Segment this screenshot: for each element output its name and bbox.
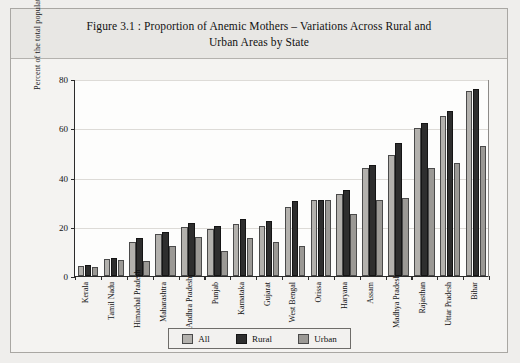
bar-urban[interactable] bbox=[247, 238, 253, 276]
bar-group bbox=[311, 80, 331, 276]
x-axis-label: Rajasthan bbox=[419, 282, 428, 314]
bar-all[interactable] bbox=[233, 224, 239, 276]
bar-urban[interactable] bbox=[454, 163, 460, 276]
bar-rural[interactable] bbox=[473, 89, 479, 276]
bar-group bbox=[181, 80, 201, 276]
bar-group bbox=[285, 80, 305, 276]
x-axis-label: Punjab bbox=[212, 282, 221, 304]
bar-rural[interactable] bbox=[111, 258, 117, 276]
bar-all[interactable] bbox=[259, 226, 265, 276]
bar-group bbox=[78, 80, 98, 276]
x-axis-label: Karnataka bbox=[238, 282, 247, 315]
x-axis-label: Tamil Nadu bbox=[108, 282, 117, 320]
bar-urban[interactable] bbox=[350, 214, 356, 276]
bar-urban[interactable] bbox=[169, 246, 175, 276]
x-tick-mark bbox=[179, 276, 180, 280]
x-tick-mark bbox=[489, 276, 490, 280]
x-axis-label: Bihar bbox=[471, 282, 480, 300]
bar-group bbox=[388, 80, 408, 276]
bar-rural[interactable] bbox=[421, 123, 427, 276]
bar-urban[interactable] bbox=[402, 198, 408, 276]
bar-urban[interactable] bbox=[143, 261, 149, 276]
legend-item-all: All bbox=[182, 334, 210, 344]
figure-container: Figure 3.1 : Proportion of Anemic Mother… bbox=[10, 8, 508, 353]
x-axis-label: Orissa bbox=[315, 282, 324, 302]
x-tick-mark bbox=[411, 276, 412, 280]
x-tick-mark bbox=[75, 276, 76, 280]
bar-all[interactable] bbox=[466, 91, 472, 276]
legend-label-all: All bbox=[198, 334, 210, 344]
x-axis-label: Andhra Pradesh bbox=[186, 282, 195, 328]
bar-group bbox=[129, 80, 149, 276]
bar-urban[interactable] bbox=[325, 200, 331, 276]
bar-rural[interactable] bbox=[395, 143, 401, 276]
bar-group bbox=[362, 80, 382, 276]
bar-group bbox=[259, 80, 279, 276]
bar-all[interactable] bbox=[311, 200, 317, 276]
x-axis-label: Assam bbox=[367, 282, 376, 304]
bar-rural[interactable] bbox=[162, 232, 168, 276]
bar-urban[interactable] bbox=[273, 242, 279, 276]
bar-all[interactable] bbox=[207, 229, 213, 276]
x-tick-mark bbox=[437, 276, 438, 280]
y-tick-label-0: 0 bbox=[32, 272, 75, 282]
bar-urban[interactable] bbox=[195, 237, 201, 276]
legend: All Rural Urban bbox=[168, 328, 351, 349]
y-tick-label-60: 60 bbox=[32, 124, 75, 134]
bar-urban[interactable] bbox=[480, 146, 486, 277]
bar-rural[interactable] bbox=[188, 223, 194, 276]
bar-all[interactable] bbox=[362, 168, 368, 276]
bar-rural[interactable] bbox=[85, 265, 91, 276]
bar-rural[interactable] bbox=[292, 201, 298, 276]
bar-rural[interactable] bbox=[369, 165, 375, 276]
bar-all[interactable] bbox=[388, 155, 394, 276]
bar-rural[interactable] bbox=[447, 111, 453, 276]
x-tick-mark bbox=[256, 276, 257, 280]
x-tick-mark bbox=[360, 276, 361, 280]
figure-title: Figure 3.1 : Proportion of Anemic Mother… bbox=[11, 9, 507, 59]
bar-urban[interactable] bbox=[118, 260, 124, 276]
bar-rural[interactable] bbox=[214, 226, 220, 276]
bar-all[interactable] bbox=[285, 207, 291, 276]
bar-all[interactable] bbox=[104, 259, 110, 276]
bar-rural[interactable] bbox=[318, 200, 324, 276]
x-tick-mark bbox=[386, 276, 387, 280]
x-axis-label: Gujarat bbox=[264, 282, 273, 306]
bar-all[interactable] bbox=[336, 194, 342, 276]
legend-label-rural: Rural bbox=[252, 334, 272, 344]
bar-urban[interactable] bbox=[221, 251, 227, 276]
bar-all[interactable] bbox=[440, 116, 446, 276]
legend-swatch-rural bbox=[236, 334, 247, 344]
bar-rural[interactable] bbox=[343, 190, 349, 276]
bar-all[interactable] bbox=[414, 128, 420, 276]
bar-group bbox=[207, 80, 227, 276]
bar-group bbox=[440, 80, 460, 276]
y-tick-label-40: 40 bbox=[32, 174, 75, 184]
legend-item-rural: Rural bbox=[236, 334, 272, 344]
legend-label-urban: Urban bbox=[314, 334, 337, 344]
bar-rural[interactable] bbox=[266, 221, 272, 276]
plot-area: Percent of the total population of mothe… bbox=[74, 80, 488, 277]
x-axis-label: Madhya Pradesh bbox=[393, 282, 402, 328]
x-tick-mark bbox=[308, 276, 309, 280]
x-tick-mark bbox=[127, 276, 128, 280]
y-tick-label-20: 20 bbox=[32, 223, 75, 233]
bar-rural[interactable] bbox=[240, 219, 246, 276]
bar-group bbox=[104, 80, 124, 276]
bar-all[interactable] bbox=[78, 266, 84, 276]
bar-urban[interactable] bbox=[428, 168, 434, 276]
x-tick-mark bbox=[101, 276, 102, 280]
x-tick-mark bbox=[463, 276, 464, 280]
x-tick-mark bbox=[153, 276, 154, 280]
y-tick-label-80: 80 bbox=[32, 75, 75, 85]
plot-right-border bbox=[488, 80, 489, 277]
x-axis-label: Haryana bbox=[341, 282, 350, 309]
bar-all[interactable] bbox=[155, 234, 161, 276]
bar-all[interactable] bbox=[181, 227, 187, 276]
x-axis-label: Kerala bbox=[82, 282, 91, 303]
bar-urban[interactable] bbox=[92, 267, 98, 276]
bar-urban[interactable] bbox=[299, 246, 305, 276]
x-axis-label: West Bengal bbox=[289, 282, 298, 322]
bar-urban[interactable] bbox=[376, 200, 382, 276]
x-axis-label: Himachal Pradesh bbox=[134, 282, 143, 328]
